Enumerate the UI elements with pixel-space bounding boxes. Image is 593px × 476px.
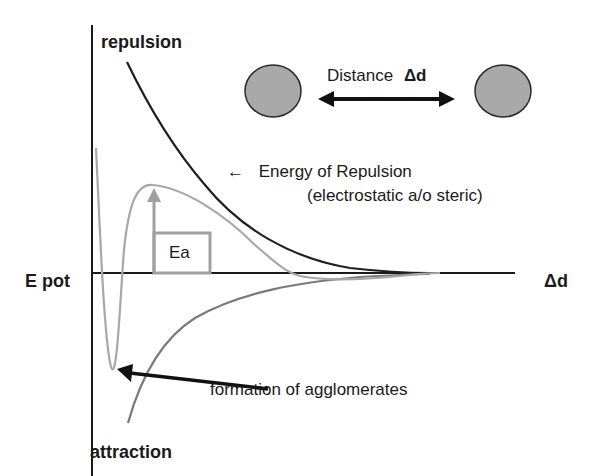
y-axis-label: E pot — [25, 271, 70, 292]
repulsion-label: repulsion — [101, 32, 182, 53]
energy-repulsion-label: ← Energy of Repulsion — [227, 162, 412, 182]
distance-text: Distance — [327, 66, 393, 85]
left-arrow-icon: ← — [227, 162, 244, 181]
ea-arrow-head-icon — [147, 188, 161, 202]
double-headed-arrow-icon — [318, 91, 455, 107]
distance-label: Distance Δd — [327, 66, 426, 86]
agglomerates-label: formation of agglomerates — [210, 380, 408, 400]
diagram-canvas — [0, 0, 593, 476]
energy-repulsion-detail: (electrostatic a/o steric) — [307, 186, 483, 206]
attraction-curve — [128, 274, 430, 423]
activation-energy-label: Ea — [169, 243, 190, 263]
distance-symbol: Δd — [404, 66, 427, 85]
attraction-label: attraction — [90, 442, 172, 463]
particle-right-icon — [475, 65, 531, 117]
particle-left-icon — [245, 65, 301, 117]
energy-repulsion-text: Energy of Repulsion — [259, 162, 412, 181]
x-axis-label: Δd — [544, 271, 568, 292]
